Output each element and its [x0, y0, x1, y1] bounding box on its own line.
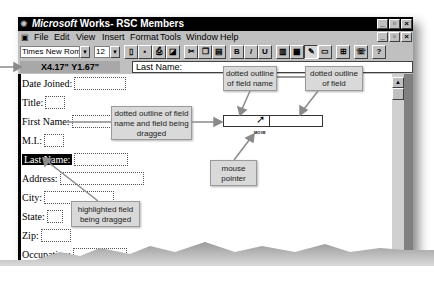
- menu-format[interactable]: Format: [130, 31, 159, 44]
- scroll-thumb[interactable]: [392, 88, 404, 100]
- cut-icon[interactable]: ✂: [184, 45, 198, 59]
- field-box[interactable]: [60, 172, 144, 185]
- callout-mouse-pointer: mouse pointer: [210, 160, 257, 186]
- field-address[interactable]: Address:: [22, 171, 144, 185]
- callout-field-name: dotted outline of field name: [223, 66, 277, 91]
- font-size-dropdown-icon[interactable]: ▼: [110, 46, 120, 58]
- callout-field: dotted outline of field: [305, 66, 363, 91]
- report-view-icon[interactable]: ▭: [318, 45, 332, 59]
- menu-view[interactable]: View: [76, 31, 95, 44]
- menu-window[interactable]: Window: [186, 31, 218, 44]
- field-box[interactable]: [44, 134, 64, 147]
- menu-help[interactable]: Help: [220, 31, 239, 44]
- menu-edit[interactable]: Edit: [54, 31, 70, 44]
- app-window-controls: _ ▫ ×: [377, 19, 412, 29]
- font-name-dropdown-icon[interactable]: ▼: [80, 46, 90, 58]
- document-icon[interactable]: ▣: [21, 33, 31, 42]
- field-box[interactable]: [74, 153, 128, 166]
- move-label: MOVE: [254, 130, 266, 135]
- field-box[interactable]: [47, 210, 63, 223]
- minimize-button[interactable]: _: [377, 19, 388, 29]
- menu-tools[interactable]: Tools: [160, 31, 181, 44]
- font-name-select[interactable]: Times New Roman: [20, 46, 80, 58]
- menu-insert[interactable]: Insert: [102, 31, 125, 44]
- field-state[interactable]: State:: [22, 209, 63, 223]
- font-size-select[interactable]: 12: [94, 46, 110, 58]
- field-last-name[interactable]: Last Name:: [22, 152, 128, 166]
- torn-edge: [0, 230, 434, 281]
- field-icon[interactable]: ⊞: [336, 45, 350, 59]
- save-icon[interactable]: ▪: [138, 45, 152, 59]
- doc-minimize-button[interactable]: _: [377, 32, 388, 42]
- field-mi[interactable]: M.I.:: [22, 133, 64, 147]
- paste-icon[interactable]: ▤: [212, 45, 226, 59]
- field-label[interactable]: Title:: [22, 97, 43, 108]
- mouse-pointer-icon: ➚: [256, 113, 265, 126]
- form-view-icon[interactable]: ▥: [276, 45, 290, 59]
- print-preview-icon[interactable]: ◪: [166, 45, 180, 59]
- form-design-icon[interactable]: ✎: [304, 45, 318, 59]
- field-date-joined[interactable]: Date Joined:: [22, 76, 126, 90]
- field-label[interactable]: Date Joined:: [22, 78, 72, 89]
- drag-outline-divider: [269, 116, 270, 126]
- copy-icon[interactable]: ❐: [198, 45, 212, 59]
- field-label[interactable]: Address:: [22, 173, 58, 184]
- address-book-icon[interactable]: ☏: [354, 45, 368, 59]
- field-box[interactable]: [74, 77, 126, 90]
- toolbar: Times New Roman ▼ 12 ▼ ▯ ▪ ⎙ ◪ ✂ ❐ ▤ B /…: [18, 44, 413, 60]
- close-button[interactable]: ×: [401, 19, 412, 29]
- list-view-icon[interactable]: ▦: [290, 45, 304, 59]
- title-bar: ✺ Microsoft Works- RSC Members _ ▫ ×: [18, 17, 413, 31]
- doc-close-button[interactable]: ×: [401, 32, 412, 42]
- italic-icon[interactable]: /: [244, 45, 258, 59]
- callout-highlighted: highlighted field being dragged: [71, 201, 140, 227]
- field-label-highlighted[interactable]: Last Name:: [22, 154, 72, 165]
- new-icon[interactable]: ▯: [124, 45, 138, 59]
- works-app-icon[interactable]: ✺: [20, 19, 30, 29]
- position-indicator: X4.17" Y1.67": [20, 61, 120, 73]
- print-icon[interactable]: ⎙: [152, 45, 166, 59]
- field-title[interactable]: Title:: [22, 95, 65, 109]
- field-box[interactable]: [45, 96, 65, 109]
- field-label[interactable]: City:: [22, 192, 42, 203]
- doc-restore-button[interactable]: ▫: [389, 32, 400, 42]
- underline-icon[interactable]: U: [258, 45, 272, 59]
- field-label[interactable]: First Name:: [22, 116, 70, 127]
- menu-file[interactable]: File: [34, 31, 49, 44]
- doc-window-controls: _ ▫ ×: [377, 32, 412, 42]
- callout-dragging: dotted outline of field name and field b…: [111, 106, 192, 140]
- scroll-up-arrow-icon[interactable]: ▲: [392, 77, 404, 88]
- field-label[interactable]: M.I.:: [22, 135, 42, 146]
- help-icon[interactable]: ?: [372, 45, 386, 59]
- bold-icon[interactable]: B: [230, 45, 244, 59]
- restore-button[interactable]: ▫: [389, 19, 400, 29]
- menu-bar: ▣ File Edit View Insert Format Tools Win…: [18, 31, 413, 44]
- field-label[interactable]: State:: [22, 211, 45, 222]
- window-title: Microsoft Works- RSC Members: [32, 17, 184, 31]
- drag-outline: [223, 115, 323, 127]
